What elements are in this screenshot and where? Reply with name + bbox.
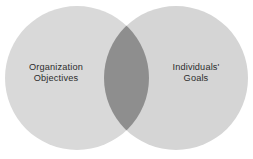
set-label-organization-objectives: Organization Objectives	[12, 62, 100, 85]
set-label-organization-line2: Objectives	[12, 73, 100, 84]
set-label-individuals-line1: Individuals'	[152, 62, 240, 73]
set-label-individuals-line2: Goals	[152, 73, 240, 84]
set-label-organization-line1: Organization	[12, 62, 100, 73]
set-label-individuals-goals: Individuals' Goals	[152, 62, 240, 85]
venn-diagram: Organization Objectives Individuals' Goa…	[0, 0, 253, 159]
